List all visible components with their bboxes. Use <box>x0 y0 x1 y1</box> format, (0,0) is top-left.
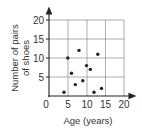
data-point <box>62 91 65 94</box>
y-axis-title-line2: of shoes <box>20 40 31 76</box>
y-axis-arrow-icon <box>47 8 52 14</box>
data-point <box>92 91 95 94</box>
y-tick-label: 10 <box>33 53 45 64</box>
data-point <box>85 64 88 67</box>
data-point <box>77 49 80 52</box>
axes <box>47 8 136 99</box>
x-tick-label: 5 <box>65 99 71 110</box>
x-axis-title: Age (years) <box>63 115 112 126</box>
x-tick-label: 0 <box>43 99 49 110</box>
x-tick-label: 15 <box>100 99 112 110</box>
data-point <box>66 56 69 59</box>
data-point <box>74 83 77 86</box>
data-point <box>100 87 103 90</box>
y-tick-label: 15 <box>33 34 45 45</box>
data-point <box>70 72 73 75</box>
scatter-chart: 5 10 15 20 0 5 10 15 20 Age (years) Numb… <box>0 0 142 134</box>
data-point <box>89 68 92 71</box>
x-tick-label: 10 <box>81 99 93 110</box>
x-axis-arrow-icon <box>129 94 135 99</box>
y-axis-title-line1: Number of pairs <box>9 24 20 92</box>
grid <box>49 20 124 96</box>
x-tick-label: 20 <box>118 99 130 110</box>
data-point <box>81 79 84 82</box>
data-point <box>96 53 99 56</box>
y-tick-label: 20 <box>33 15 45 26</box>
y-tick-label: 5 <box>38 72 44 83</box>
data-points <box>62 49 103 94</box>
